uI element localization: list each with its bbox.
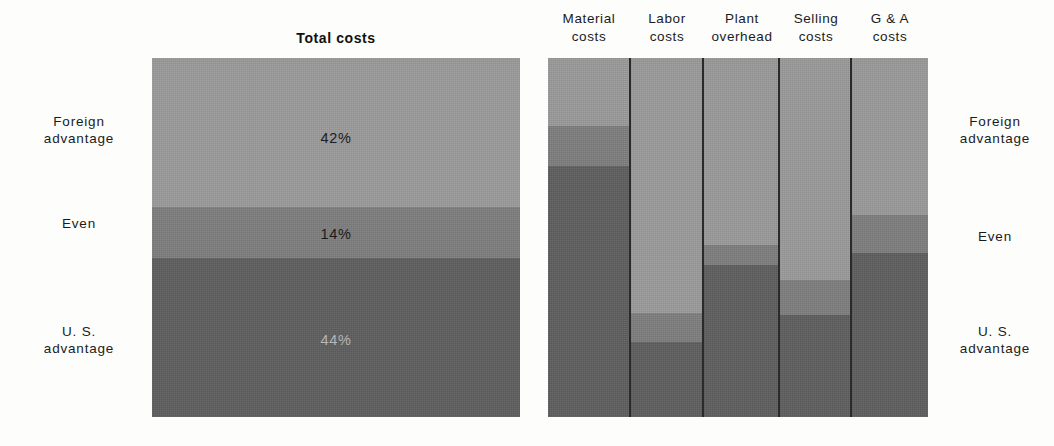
left-legend-us-advantage: U. S. advantage <box>18 323 140 357</box>
right-legend-even: Even <box>940 228 1050 245</box>
ga-costs-segment-even <box>851 215 928 253</box>
material-costs-segment-even <box>548 126 629 166</box>
selling-costs-bar <box>779 58 850 417</box>
total-costs-foreign-value: 42% <box>152 130 520 146</box>
column-label-plant-line1: Plant <box>700 10 784 28</box>
ga-costs-segment-foreign-advantage <box>851 58 928 215</box>
labor-costs-segment-us-advantage <box>630 342 702 417</box>
ga-costs-bar <box>851 58 928 417</box>
plant-overhead-segment-us-advantage <box>703 265 778 417</box>
total-costs-segment-foreign-advantage: 42% <box>152 58 520 207</box>
selling-costs-segment-even <box>779 280 850 315</box>
total-costs-bar: 42% 14% 44% <box>152 58 520 417</box>
plant-overhead-bar <box>703 58 778 417</box>
selling-costs-segment-us-advantage <box>779 315 850 417</box>
cost-breakdown-panel <box>548 58 928 417</box>
column-label-labor-line2: costs <box>628 28 706 46</box>
material-costs-segment-us-advantage <box>548 166 629 417</box>
left-legend-even: Even <box>18 215 140 232</box>
left-legend-us-line2: advantage <box>18 340 140 357</box>
right-legend-foreign-line1: Foreign <box>940 113 1050 130</box>
total-costs-even-value: 14% <box>152 226 520 242</box>
column-label-ga-line1: G & A <box>850 10 930 28</box>
column-label-material-line2: costs <box>545 28 633 46</box>
stacked-bar-chart-figure: Foreign advantage Even U. S. advantage T… <box>0 0 1054 446</box>
column-label-selling-costs: Selling costs <box>776 10 856 46</box>
total-costs-segment-even: 14% <box>152 207 520 258</box>
left-panel-title: Total costs <box>152 30 520 46</box>
column-label-selling-line1: Selling <box>776 10 856 28</box>
column-label-ga-costs: G & A costs <box>850 10 930 46</box>
selling-costs-segment-foreign-advantage <box>779 58 850 280</box>
column-label-material-costs: Material costs <box>545 10 633 46</box>
material-costs-bar <box>548 58 629 417</box>
plant-overhead-segment-even <box>703 245 778 265</box>
left-legend-foreign-line2: advantage <box>18 130 140 147</box>
column-label-labor-costs: Labor costs <box>628 10 706 46</box>
labor-costs-segment-even <box>630 313 702 342</box>
labor-costs-segment-foreign-advantage <box>630 58 702 313</box>
right-legend-us-advantage: U. S. advantage <box>940 323 1050 357</box>
column-divider-4 <box>850 58 852 417</box>
left-legend-foreign-advantage: Foreign advantage <box>18 113 140 147</box>
plant-overhead-segment-foreign-advantage <box>703 58 778 245</box>
right-legend-us-line1: U. S. <box>940 323 1050 340</box>
column-label-plant-overhead: Plant overhead <box>700 10 784 46</box>
total-costs-segment-us-advantage: 44% <box>152 258 520 417</box>
left-legend-us-line1: U. S. <box>18 323 140 340</box>
left-legend-foreign-line1: Foreign <box>18 113 140 130</box>
column-label-selling-line2: costs <box>776 28 856 46</box>
right-legend-us-line2: advantage <box>940 340 1050 357</box>
column-label-material-line1: Material <box>545 10 633 28</box>
right-legend-foreign-advantage: Foreign advantage <box>940 113 1050 147</box>
column-label-ga-line2: costs <box>850 28 930 46</box>
right-legend-even-text: Even <box>940 228 1050 245</box>
column-divider-1 <box>629 58 631 417</box>
left-legend-even-text: Even <box>18 215 140 232</box>
column-divider-2 <box>702 58 704 417</box>
column-label-plant-line2: overhead <box>700 28 784 46</box>
total-costs-us-value: 44% <box>152 332 520 348</box>
labor-costs-bar <box>630 58 702 417</box>
ga-costs-segment-us-advantage <box>851 253 928 417</box>
column-label-labor-line1: Labor <box>628 10 706 28</box>
column-divider-3 <box>778 58 780 417</box>
material-costs-segment-foreign-advantage <box>548 58 629 126</box>
right-legend-foreign-line2: advantage <box>940 130 1050 147</box>
